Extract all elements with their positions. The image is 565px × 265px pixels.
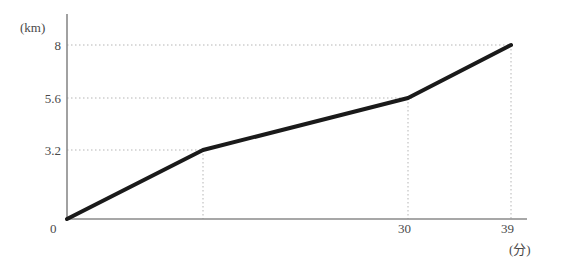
y-tick-label-5-6: 5.6 <box>45 92 61 105</box>
y-tick-label-3-2: 3.2 <box>45 144 61 157</box>
y-tick-label-8: 8 <box>55 39 62 52</box>
y-axis-unit-label: (km) <box>20 21 45 34</box>
gridlines-vertical <box>203 45 511 219</box>
x-tick-label-39: 39 <box>501 222 514 235</box>
x-axis-unit-label: (分) <box>509 243 531 256</box>
line-chart: (km) 8 5.6 3.2 0 30 39 (分) <box>0 0 565 265</box>
x-tick-label-origin: 0 <box>50 222 57 235</box>
gridlines-horizontal <box>67 45 515 150</box>
data-line-distance <box>67 45 511 219</box>
chart-plot-area <box>0 0 565 265</box>
x-tick-label-30: 30 <box>398 222 411 235</box>
